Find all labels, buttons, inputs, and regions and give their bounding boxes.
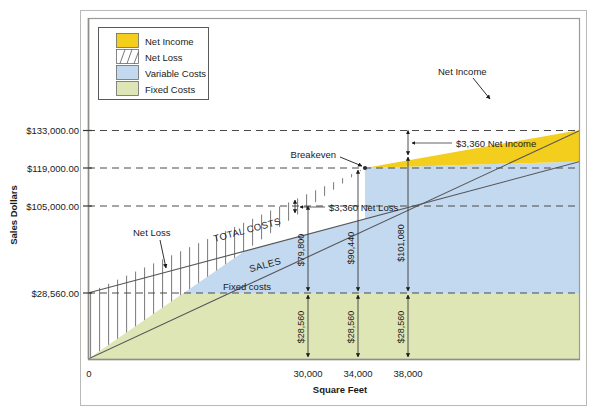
net-loss-region-label: Net Loss [133,227,171,238]
legend-label-net-income: Net Income [145,36,194,47]
variable-cost-label-30000: $79,800 [296,234,306,267]
net-income-amount-label: $3,360 Net Income [456,138,536,149]
x-axis-title: Square Feet [313,384,368,395]
y-tick-label-119000: $119,000.00 [27,163,79,174]
y-tick-label-133000: $133,000.00 [26,125,79,136]
x-tick-label-0: 0 [86,368,91,379]
fixed-cost-label-38000: $28,560 [396,311,406,344]
fixed-costs-line-label: Fixed costs [223,281,271,292]
y-tick-label-105000: $105,000.00 [26,201,79,212]
legend-label-net-loss: Net Loss [145,52,183,63]
x-tick-label-38000: 38,000 [393,368,422,379]
region-net-income [365,130,580,168]
legend-swatch-net-income [117,34,139,48]
fixed-cost-label-30000: $28,560 [296,311,306,344]
net-income-callout: Net Income [438,66,490,99]
y-tick-label-28560: $28,560.00 [31,288,79,299]
net-loss-amount-label: $3,360 Net Loss [329,202,398,213]
legend: Net Income Net Loss Variable Costs Fixed… [99,28,209,100]
legend-swatch-variable-costs [117,66,139,80]
legend-label-variable-costs: Variable Costs [145,68,206,79]
x-tick-label-34000: 34,000 [343,368,372,379]
variable-cost-label-34000: $90,440 [346,232,356,265]
y-axis-title: Sales Dollars [8,185,19,245]
breakeven-callout: Breakeven [291,149,368,170]
variable-cost-label-38000: $101,080 [396,224,406,262]
breakeven-chart: $133,000.00 $119,000.00 $105,000.00 $28,… [0,0,595,415]
net-loss-callout: Net Loss [133,227,171,268]
net-income-region-label: Net Income [438,66,487,77]
breakeven-label: Breakeven [291,149,336,160]
legend-label-fixed-costs: Fixed Costs [145,84,195,95]
fixed-cost-label-34000: $28,560 [346,311,356,344]
plot-area [88,130,580,359]
x-tick-label-30000: 30,000 [293,368,322,379]
legend-swatch-fixed-costs [117,82,139,96]
